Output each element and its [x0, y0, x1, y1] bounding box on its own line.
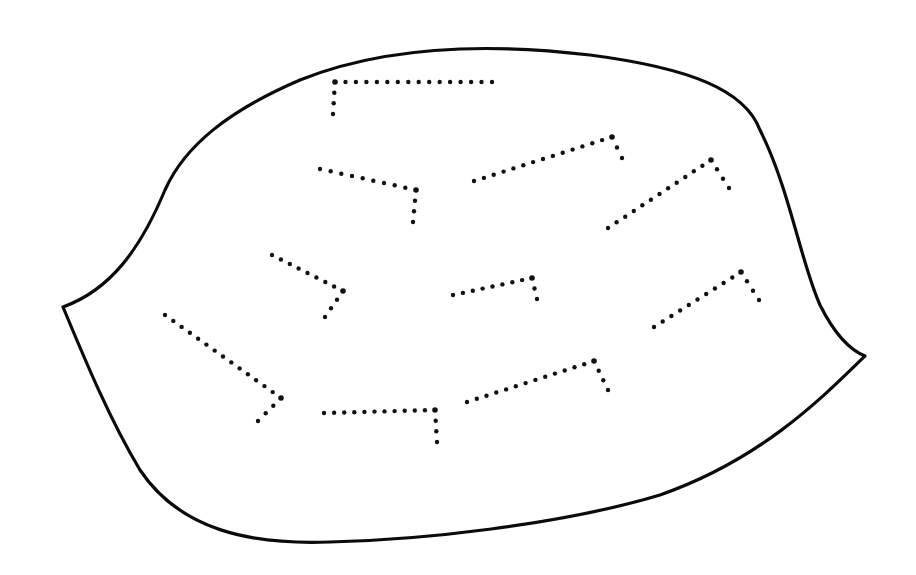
- dot: [332, 411, 336, 415]
- dot: [482, 176, 486, 180]
- dot: [572, 365, 576, 369]
- dot: [727, 186, 731, 190]
- dot: [362, 410, 366, 414]
- dot: [432, 407, 438, 413]
- dot: [591, 358, 597, 364]
- dot: [535, 297, 539, 301]
- dotted-l-mark: [652, 269, 761, 329]
- dot: [669, 314, 673, 318]
- dot: [721, 281, 725, 285]
- dot: [171, 319, 175, 323]
- dot: [332, 284, 336, 288]
- dot: [730, 275, 734, 279]
- dot: [296, 266, 300, 270]
- dot: [427, 80, 431, 84]
- dot: [695, 297, 699, 301]
- dot: [692, 169, 696, 173]
- dot: [352, 410, 356, 414]
- dot: [332, 79, 338, 85]
- dot: [271, 404, 275, 408]
- dot: [413, 187, 419, 193]
- dot: [254, 378, 258, 382]
- dot: [335, 298, 339, 302]
- dotted-l-mark: [606, 157, 731, 230]
- dotted-l-mark: [322, 407, 439, 444]
- dot: [382, 181, 386, 185]
- dot: [412, 209, 416, 213]
- dot: [331, 112, 335, 116]
- dot: [256, 419, 260, 423]
- dot: [590, 141, 594, 145]
- dot: [403, 186, 407, 190]
- dot: [657, 192, 661, 196]
- dot: [417, 80, 421, 84]
- dot: [188, 331, 192, 335]
- dot: [406, 80, 410, 84]
- dot: [434, 429, 438, 433]
- dot: [683, 175, 687, 179]
- dot: [580, 144, 584, 148]
- dot: [652, 325, 656, 329]
- dot: [221, 354, 225, 358]
- dot: [350, 174, 354, 178]
- dot: [458, 80, 462, 84]
- dot: [448, 80, 452, 84]
- dot: [600, 138, 604, 142]
- dot: [553, 371, 557, 375]
- dot: [332, 101, 336, 105]
- dot: [721, 177, 725, 181]
- dot: [392, 409, 396, 413]
- dot: [563, 368, 567, 372]
- dot: [288, 262, 292, 266]
- dot: [271, 390, 275, 394]
- dot: [529, 275, 535, 281]
- dot: [531, 160, 535, 164]
- dot: [413, 199, 417, 203]
- dot: [523, 381, 527, 385]
- dot: [704, 292, 708, 296]
- dot: [204, 342, 208, 346]
- dot: [372, 409, 376, 413]
- dot: [687, 303, 691, 307]
- dot: [614, 220, 618, 224]
- dot: [514, 384, 518, 388]
- dot: [597, 369, 601, 373]
- dot: [354, 80, 358, 84]
- dot: [713, 286, 717, 290]
- dot: [461, 291, 465, 295]
- dot: [511, 166, 515, 170]
- dot: [329, 306, 333, 310]
- dot: [745, 279, 749, 283]
- dot: [708, 157, 714, 163]
- dot: [623, 215, 627, 219]
- dot: [246, 372, 250, 376]
- dot: [479, 80, 483, 84]
- dot: [279, 257, 283, 261]
- dot: [582, 362, 586, 366]
- dot: [278, 395, 284, 401]
- dot: [510, 280, 514, 284]
- dot: [543, 375, 547, 379]
- dot: [385, 80, 389, 84]
- dot: [343, 80, 347, 84]
- dot: [423, 408, 427, 412]
- dot: [606, 388, 610, 392]
- dot: [396, 80, 400, 84]
- dot: [500, 282, 504, 286]
- dotted-l-mark: [270, 253, 346, 319]
- dot: [411, 220, 415, 224]
- dot: [640, 203, 644, 207]
- dotted-l-mark: [472, 134, 624, 183]
- dot: [270, 253, 274, 257]
- dot: [322, 411, 326, 415]
- dot: [520, 278, 524, 282]
- dot: [609, 134, 615, 140]
- dot: [465, 400, 469, 404]
- dotted-l-mark: [331, 79, 494, 116]
- dot: [329, 169, 333, 173]
- dot: [364, 80, 368, 84]
- dotted-l-mark: [163, 313, 284, 423]
- dot: [561, 151, 565, 155]
- dot: [541, 157, 545, 161]
- dot: [620, 156, 624, 160]
